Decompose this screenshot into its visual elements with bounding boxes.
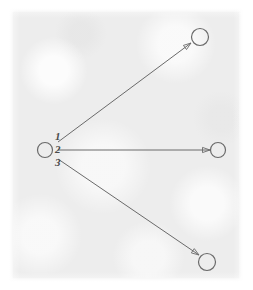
edge-1-label: 1 [55,130,61,142]
edge-3-group: 3 [54,156,199,255]
scanned-diagram-page: 1 2 3 [0,0,253,290]
edge-2-group: 2 [54,143,210,155]
target-node-middle[interactable] [211,143,226,158]
edge-2-label: 2 [54,143,61,155]
source-node[interactable] [38,143,53,158]
edge-3-line [58,159,199,255]
target-node-bottom[interactable] [199,254,216,271]
edge-1-group: 1 [55,43,191,142]
graph-diagram: 1 2 3 [0,0,253,290]
edge-3-label: 3 [54,156,61,168]
target-node-top[interactable] [192,29,209,46]
edge-1-line [58,43,191,142]
